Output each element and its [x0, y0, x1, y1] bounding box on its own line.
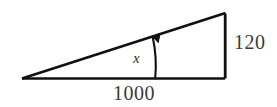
- triangle-hypotenuse-line: [22, 13, 226, 79]
- triangle-figure: x 1000 120: [0, 0, 277, 107]
- base-length-label: 1000: [113, 83, 155, 103]
- height-length-label: 120: [234, 32, 266, 52]
- triangle-outline: [22, 13, 226, 79]
- angle-arc-group: [153, 34, 160, 79]
- angle-arc: [153, 37, 156, 79]
- angle-label: x: [133, 51, 140, 66]
